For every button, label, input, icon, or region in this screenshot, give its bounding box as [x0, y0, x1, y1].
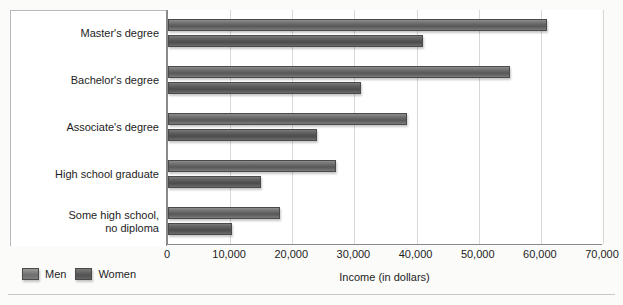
- category-row: Master's degree: [168, 10, 602, 57]
- x-axis-tick-label: 70,000: [585, 248, 619, 260]
- bar-men: [168, 207, 280, 219]
- bar-men: [168, 113, 407, 125]
- x-axis-tick-label: 30,000: [337, 248, 371, 260]
- bar-rows: Master's degreeBachelor's degreeAssociat…: [168, 10, 602, 244]
- x-axis-tick-label: 10,000: [212, 248, 246, 260]
- legend-item-women[interactable]: Women: [75, 268, 136, 280]
- plot-area: Master's degreeBachelor's degreeAssociat…: [167, 10, 602, 245]
- bar-women: [168, 176, 261, 188]
- legend-item-men[interactable]: Men: [22, 268, 66, 280]
- legend-swatch-icon: [75, 268, 92, 280]
- category-label: Master's degree: [18, 10, 168, 57]
- x-axis-tick-label: 60,000: [523, 248, 557, 260]
- x-axis-tick-label: 40,000: [399, 248, 433, 260]
- bar-women: [168, 35, 423, 47]
- x-axis-tick-label: 20,000: [274, 248, 308, 260]
- x-axis-tick-label: 50,000: [461, 248, 495, 260]
- x-axis-title: Income (in dollars): [167, 271, 602, 283]
- category-label: Bachelor's degree: [18, 57, 168, 104]
- x-axis-tick-labels: 010,00020,00030,00040,00050,00060,00070,…: [167, 248, 602, 264]
- category-label: High school graduate: [18, 151, 168, 198]
- bar-chart-figure: Master's degreeBachelor's degreeAssociat…: [0, 0, 623, 305]
- legend-label: Women: [98, 268, 136, 280]
- legend-label: Men: [45, 268, 66, 280]
- bar-women: [168, 82, 361, 94]
- category-label: Associate's degree: [18, 104, 168, 151]
- category-row: High school graduate: [168, 151, 602, 198]
- legend-swatch-icon: [22, 268, 39, 280]
- x-axis-tick-label: 0: [164, 248, 170, 260]
- category-row: Bachelor's degree: [168, 57, 602, 104]
- category-label: Some high school, no diploma: [18, 198, 168, 245]
- category-row: Associate's degree: [168, 104, 602, 151]
- bar-women: [168, 223, 232, 235]
- legend: MenWomen: [22, 268, 136, 280]
- bar-men: [168, 66, 510, 78]
- category-row: Some high school, no diploma: [168, 198, 602, 245]
- bar-men: [168, 19, 547, 31]
- bar-women: [168, 129, 317, 141]
- bar-men: [168, 160, 336, 172]
